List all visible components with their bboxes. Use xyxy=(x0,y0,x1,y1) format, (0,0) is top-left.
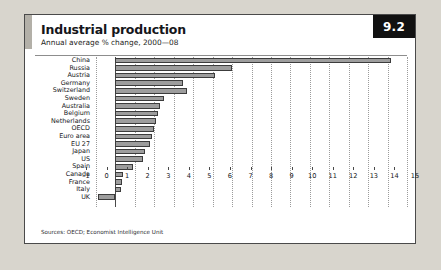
plot-wrapper: ChinaRussiaAustriaGermanySwitzerlandSwed… xyxy=(35,55,407,225)
bar-row xyxy=(96,103,407,111)
bar-row xyxy=(96,65,407,73)
figure-panel: Industrial production Annual average % c… xyxy=(24,14,416,244)
plot-top-rule xyxy=(35,55,407,56)
bar xyxy=(115,141,150,147)
axis-tick-mark xyxy=(394,167,395,170)
axis-tick-label: 14 xyxy=(390,172,398,180)
chart-subtitle: Annual average % change, 2000—08 xyxy=(41,38,179,47)
bar xyxy=(115,149,144,155)
axis-tick-mark xyxy=(189,167,190,170)
bar xyxy=(115,96,164,102)
axis-tick-mark xyxy=(209,167,210,170)
bar-row xyxy=(96,141,407,149)
axis-tick-mark xyxy=(374,167,375,170)
axis-tick-mark xyxy=(251,167,252,170)
axis-tick-label: 10 xyxy=(308,172,316,180)
axis-tick-label: 1 xyxy=(125,172,129,180)
source-note: Sources: OECD; Economist Intelligence Un… xyxy=(41,229,163,235)
axis-tick-mark xyxy=(415,167,416,170)
bar xyxy=(98,194,115,200)
axis-tick-mark xyxy=(168,167,169,170)
axis-tick-mark xyxy=(148,167,149,170)
bar xyxy=(115,156,142,162)
axis-tick-label: 7 xyxy=(248,172,252,180)
axis-tick-label: 15 xyxy=(411,172,419,180)
axis-tick-mark xyxy=(86,167,87,170)
axis-tick-mark xyxy=(333,167,334,170)
bar-row xyxy=(96,95,407,103)
bar-row xyxy=(96,186,407,194)
bar-row xyxy=(96,148,407,156)
bar xyxy=(115,111,158,117)
bar xyxy=(115,58,391,64)
category-label: UK xyxy=(35,194,93,202)
axis-tick-label: 6 xyxy=(228,172,232,180)
bar-row xyxy=(96,72,407,80)
axis-tick-label: 5 xyxy=(207,172,211,180)
axis-tick-mark xyxy=(292,167,293,170)
axis-tick-label: 8 xyxy=(269,172,273,180)
bar xyxy=(115,134,152,140)
bar-row xyxy=(96,87,407,95)
bar-row xyxy=(96,80,407,88)
axis-tick-mark xyxy=(312,167,313,170)
status-badge: 9.2 xyxy=(373,15,415,38)
axis-tick-mark xyxy=(107,167,108,170)
bar-row xyxy=(96,133,407,141)
axis-tick-label: 2 xyxy=(146,172,150,180)
bar-row xyxy=(96,110,407,118)
title-accent-bar xyxy=(25,15,32,49)
bar-row xyxy=(96,118,407,126)
page-title: Industrial production xyxy=(41,22,186,37)
bar-row xyxy=(96,156,407,164)
bar-row xyxy=(96,57,407,65)
bar-row xyxy=(96,125,407,133)
axis-tick-mark xyxy=(271,167,272,170)
axis-tick-label: 13 xyxy=(370,172,378,180)
axis-tick-label: 4 xyxy=(187,172,191,180)
bar xyxy=(115,103,160,109)
bar xyxy=(115,126,154,132)
value-axis: –10123456789101112131415 xyxy=(86,167,415,185)
bar xyxy=(115,73,214,79)
axis-tick-mark xyxy=(230,167,231,170)
axis-tick-label: 11 xyxy=(329,172,337,180)
bar xyxy=(115,65,232,71)
axis-tick-label: 3 xyxy=(166,172,170,180)
bar xyxy=(115,118,156,124)
axis-tick-mark xyxy=(353,167,354,170)
axis-tick-mark xyxy=(127,167,128,170)
axis-tick-label: 9 xyxy=(290,172,294,180)
axis-tick-label: 0 xyxy=(104,172,108,180)
bar-row xyxy=(96,194,407,202)
bar xyxy=(115,187,121,193)
bar xyxy=(115,88,187,94)
axis-tick-label: 12 xyxy=(349,172,357,180)
bar xyxy=(115,80,183,86)
axis-tick-label: –1 xyxy=(82,172,90,180)
